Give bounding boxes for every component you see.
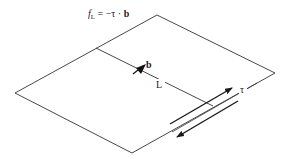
dislocation-force-diagram: fL = −τ · b b L τ (0, 0, 293, 159)
slip-plane (15, 15, 275, 153)
burgers-vector-label: b (146, 59, 152, 70)
shear-arrow-upper-icon (170, 88, 232, 124)
dislocation-line (96, 48, 213, 106)
line-length-label: L (156, 79, 162, 90)
force-formula: fL = −τ · b (88, 8, 130, 21)
shear-stress-label: τ (240, 84, 244, 95)
burgers-vector-arrow-icon (133, 64, 146, 74)
shear-arrow-lower-icon (177, 101, 238, 137)
